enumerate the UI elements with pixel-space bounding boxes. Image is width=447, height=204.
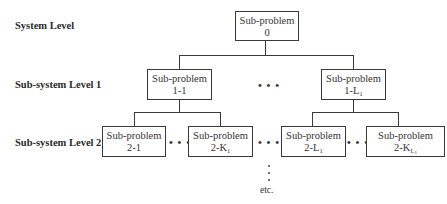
node-id-prefix: 2-K [211, 142, 227, 153]
connector-to-1-L1 [353, 55, 354, 69]
node-sub-problem-0: Sub-problem 0 [235, 11, 299, 41]
vertical-dot [268, 165, 270, 167]
vertical-dot [268, 179, 270, 181]
ellipsis-level1: • • • [258, 80, 280, 90]
node-id-subscript: L1 [410, 147, 416, 154]
node-id-subscript: 1 [319, 147, 322, 154]
node-id-prefix: 2-L [304, 142, 319, 153]
node-id: 1-L1 [322, 85, 385, 100]
node-title: Sub-problem [326, 73, 381, 84]
connector-right-level2-bar [312, 112, 399, 113]
connector-1-1-down [179, 99, 180, 112]
connector-to-2-KL1 [398, 112, 399, 126]
node-title: Sub-problem [152, 73, 207, 84]
connector-level1-bar [179, 55, 354, 56]
level-label-subsystem-2: Sub-system Level 2 [15, 137, 101, 148]
node-sub-problem-2-K1: Sub-problem 2-K1 [188, 126, 253, 157]
node-id: 2-L1 [282, 142, 345, 157]
node-title: Sub-problem [107, 130, 162, 141]
node-id: 2-KL1 [367, 142, 444, 159]
node-sub-problem-2-1: Sub-problem 2-1 [102, 126, 166, 157]
connector-to-2-L1 [312, 112, 313, 126]
node-title: Sub-problem [240, 15, 295, 26]
node-id-subscript: 1 [359, 90, 362, 97]
level-label-system: System Level [15, 20, 74, 31]
connector-to-2-1 [134, 112, 135, 126]
node-id: 2-K1 [189, 142, 252, 157]
connector-1-L1-down [353, 99, 354, 112]
node-title: Sub-problem [193, 130, 248, 141]
connector-root-down [265, 40, 266, 55]
node-sub-problem-1-1: Sub-problem 1-1 [147, 69, 212, 100]
node-sub-problem-2-L1: Sub-problem 2-L1 [281, 126, 346, 157]
node-id: 2-1 [103, 142, 165, 154]
node-id-prefix: 1-L [344, 85, 359, 96]
node-sub-problem-1-L1: Sub-problem 1-L1 [321, 69, 386, 100]
node-id: 0 [236, 27, 298, 39]
node-id-prefix: 2-K [394, 142, 410, 153]
connector-to-2-K1 [220, 112, 221, 126]
connector-to-1-1 [179, 55, 180, 69]
node-id: 1-1 [148, 85, 211, 97]
ellipsis-level2-middle: • • • [258, 137, 280, 147]
node-id-subsubscript: 1 [414, 150, 417, 155]
level-label-subsystem-1: Sub-system Level 1 [15, 79, 101, 90]
connector-left-level2-bar [134, 112, 221, 113]
node-sub-problem-2-KL1: Sub-problem 2-KL1 [366, 126, 445, 157]
continuation-label: etc. [260, 185, 273, 195]
node-id-subscript: 1 [227, 147, 230, 154]
vertical-dot [268, 172, 270, 174]
node-title: Sub-problem [378, 130, 433, 141]
node-title: Sub-problem [286, 130, 341, 141]
hierarchy-diagram: System Level Sub-system Level 1 Sub-syst… [0, 0, 447, 204]
